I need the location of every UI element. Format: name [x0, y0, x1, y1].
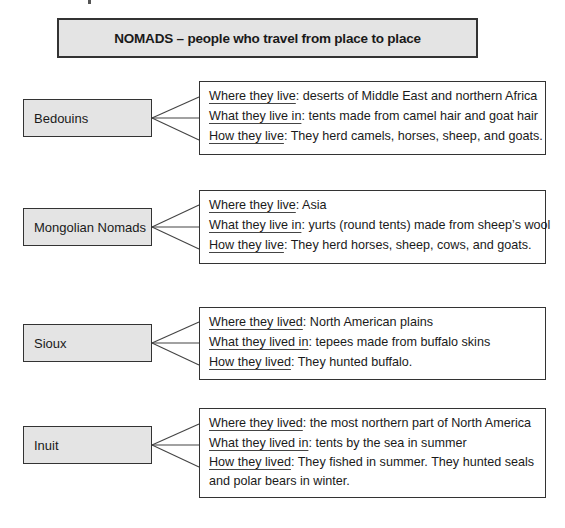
group-details-mongolian-nomads: Where they live: Asia What they live in:…: [199, 190, 546, 264]
detail-row-how: How they live: They herd horses, sheep, …: [209, 235, 536, 255]
detail-key: Where they live: [209, 89, 296, 103]
detail-value: : North American plains: [303, 315, 433, 329]
detail-row-what: What they live in: tents made from camel…: [209, 106, 536, 126]
group-label-text: Bedouins: [34, 111, 88, 126]
detail-row-where: Where they live: Asia: [209, 195, 536, 215]
detail-row-what: What they lived in: tepees made from buf…: [209, 332, 536, 352]
detail-row-where: Where they lived: the most northern part…: [209, 413, 536, 433]
detail-row-how: How they live: They herd camels, horses,…: [209, 126, 536, 146]
detail-row-what: What they lived in: tents by the sea in …: [209, 433, 536, 453]
detail-row-how: How they lived: They fished in summer. T…: [209, 453, 536, 491]
group-label-bedouins: Bedouins: [23, 99, 152, 137]
detail-key: How they live: [209, 129, 284, 143]
detail-value: : the most northern part of North Americ…: [303, 416, 531, 430]
detail-key: What they live in: [209, 109, 301, 123]
detail-key: How they lived: [209, 455, 291, 469]
group-label-text: Inuit: [34, 438, 59, 453]
detail-key: How they lived: [209, 355, 291, 369]
group-label-mongolian-nomads: Mongolian Nomads: [23, 208, 152, 246]
detail-value: : tents made from camel hair and goat ha…: [301, 109, 538, 123]
detail-value: : They herd camels, horses, sheep, and g…: [284, 129, 543, 143]
detail-value: : yurts (round tents) made from sheep’s …: [301, 218, 550, 232]
detail-key: Where they lived: [209, 315, 303, 329]
detail-value: : They herd horses, sheep, cows, and goa…: [284, 238, 532, 252]
detail-value: : Asia: [296, 198, 327, 212]
group-label-text: Sioux: [34, 336, 67, 351]
group-label-inuit: Inuit: [23, 426, 152, 464]
detail-row-how: How they lived: They hunted buffalo.: [209, 352, 536, 372]
group-label-text: Mongolian Nomads: [34, 220, 146, 235]
detail-key: Where they lived: [209, 416, 303, 430]
detail-value: : They hunted buffalo.: [291, 355, 412, 369]
detail-row-what: What they live in: yurts (round tents) m…: [209, 215, 536, 235]
group-details-bedouins: Where they live: deserts of Middle East …: [199, 81, 546, 155]
detail-value: : tents by the sea in summer: [308, 436, 466, 450]
detail-key: What they lived in: [209, 436, 308, 450]
detail-key: What they live in: [209, 218, 301, 232]
detail-value: : deserts of Middle East and northern Af…: [296, 89, 538, 103]
detail-row-where: Where they lived: North American plains: [209, 312, 536, 332]
group-details-inuit: Where they lived: the most northern part…: [199, 408, 546, 498]
group-details-sioux: Where they lived: North American plains …: [199, 307, 546, 380]
detail-row-where: Where they live: deserts of Middle East …: [209, 86, 536, 106]
detail-key: How they live: [209, 238, 284, 252]
detail-key: Where they live: [209, 198, 296, 212]
group-label-sioux: Sioux: [23, 324, 152, 362]
detail-value: : tepees made from buffalo skins: [308, 335, 490, 349]
detail-key: What they lived in: [209, 335, 308, 349]
